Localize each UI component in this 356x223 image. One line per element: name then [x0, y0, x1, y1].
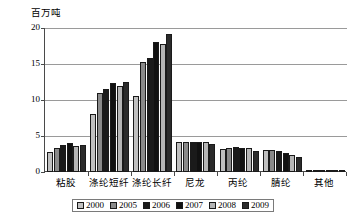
bar-2009-2	[166, 34, 172, 172]
bar-group-4	[218, 28, 261, 172]
bar-2008-3	[203, 142, 209, 172]
x-tick-label-3: 尼龙	[185, 175, 205, 189]
y-tick-mark-0	[41, 172, 45, 173]
bar-2005-6	[313, 170, 319, 172]
legend-label-2000: 2000	[86, 201, 104, 210]
bar-2009-4	[253, 151, 259, 172]
bar-2006-3	[190, 142, 196, 172]
bar-group-0	[45, 28, 88, 172]
legend-swatch-icon-2008	[209, 202, 216, 209]
y-tick-label-10: 10	[18, 95, 40, 104]
bar-2005-3	[183, 142, 189, 172]
x-tick-mark-6	[346, 172, 347, 176]
chart-legend: 200020052006200720082009	[72, 199, 274, 212]
bar-group-3	[174, 28, 217, 172]
legend-item-2007[interactable]: 2007	[176, 201, 203, 210]
bar-2009-0	[80, 145, 86, 172]
x-tick-label-0: 粘胶	[56, 175, 76, 189]
legend-item-2008[interactable]: 2008	[209, 201, 236, 210]
bar-2000-5	[263, 150, 269, 172]
x-tick-label-5: 腈纶	[271, 175, 291, 189]
bar-2007-3	[196, 142, 202, 172]
legend-label-2008: 2008	[218, 201, 236, 210]
bar-group-1	[88, 28, 131, 172]
x-tick-label-4: 丙纶	[228, 175, 248, 189]
bar-2009-5	[296, 157, 302, 172]
x-tick-label-6: 其他	[314, 175, 334, 189]
legend-swatch-icon-2009	[242, 202, 249, 209]
bar-2007-2	[153, 42, 159, 172]
bar-2006-4	[233, 147, 239, 172]
legend-item-2005[interactable]: 2005	[110, 201, 137, 210]
bar-2005-2	[140, 62, 146, 172]
bar-group-2	[131, 28, 174, 172]
legend-label-2006: 2006	[152, 201, 170, 210]
bar-2007-6	[326, 170, 332, 172]
bar-2007-1	[110, 83, 116, 172]
bar-2005-5	[269, 150, 275, 172]
bar-2005-0	[54, 148, 60, 172]
bar-2000-6	[306, 170, 312, 172]
bar-2008-4	[246, 148, 252, 172]
legend-label-2005: 2005	[119, 201, 137, 210]
bar-2006-5	[276, 151, 282, 172]
bar-2006-6	[319, 170, 325, 172]
y-tick-label-5: 5	[18, 131, 40, 140]
x-tick-label-2: 涤纶长纤	[132, 175, 172, 189]
x-axis-tick-labels: 粘胶涤纶短纤涤纶长纤尼龙丙纶腈纶其他	[44, 175, 346, 191]
bar-2009-6	[339, 170, 345, 172]
bar-2008-5	[289, 155, 295, 172]
bar-2008-2	[160, 44, 166, 172]
legend-label-2007: 2007	[185, 201, 203, 210]
legend-swatch-icon-2007	[176, 202, 183, 209]
bar-2006-0	[60, 145, 66, 172]
bar-chart: 百万吨 05101520 粘胶涤纶短纤涤纶长纤尼龙丙纶腈纶其他 20002005…	[0, 0, 356, 223]
legend-item-2006[interactable]: 2006	[143, 201, 170, 210]
bar-2007-0	[67, 143, 73, 172]
legend-swatch-icon-2000	[77, 202, 84, 209]
x-tick-label-1: 涤纶短纤	[89, 175, 129, 189]
bar-2000-1	[90, 114, 96, 172]
bars-layer	[45, 28, 346, 172]
bar-group-6	[304, 28, 347, 172]
bar-2009-3	[209, 144, 215, 172]
legend-label-2009: 2009	[251, 201, 269, 210]
y-axis-title: 百万吨	[31, 5, 61, 19]
bar-2006-2	[147, 58, 153, 172]
legend-swatch-icon-2005	[110, 202, 117, 209]
y-tick-label-15: 15	[18, 59, 40, 68]
bar-2005-1	[97, 93, 103, 172]
bar-group-5	[261, 28, 304, 172]
bar-2005-4	[226, 148, 232, 172]
legend-item-2000[interactable]: 2000	[77, 201, 104, 210]
bar-2009-1	[123, 82, 129, 172]
bar-2000-3	[176, 142, 182, 172]
bar-2006-1	[103, 89, 109, 172]
bar-2000-2	[133, 96, 139, 172]
bar-2008-1	[117, 86, 123, 172]
bar-2008-0	[73, 146, 79, 172]
bar-2007-4	[239, 148, 245, 172]
bar-2000-0	[47, 152, 53, 172]
bar-2000-4	[220, 149, 226, 172]
y-tick-label-20: 20	[18, 23, 40, 32]
bar-2007-5	[283, 153, 289, 172]
legend-item-2009[interactable]: 2009	[242, 201, 269, 210]
y-axis-tick-labels: 05101520	[16, 28, 40, 178]
y-tick-label-0: 0	[18, 167, 40, 176]
bar-2008-6	[332, 170, 338, 172]
legend-swatch-icon-2006	[143, 202, 150, 209]
